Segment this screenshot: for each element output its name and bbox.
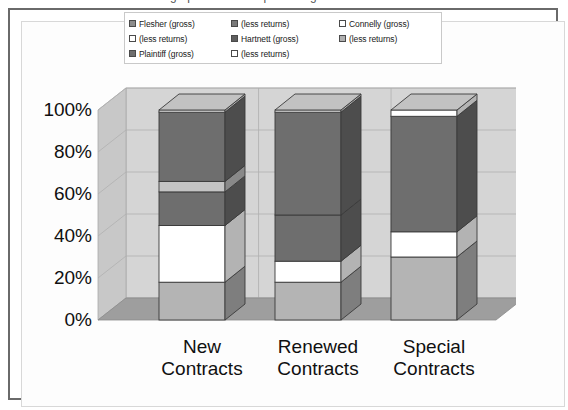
bar-3 [391,94,477,320]
legend-item: Hartnett (gross) [231,31,337,46]
legend-swatch-icon [339,20,346,27]
legend-item: (less returns) [339,31,439,46]
bar-1 [159,94,245,320]
x-axis-category-line: Special [359,336,509,358]
legend-item-label: Hartnett (gross) [241,34,298,44]
legend-item: (less returns) [231,46,337,61]
legend-item-label: (less returns) [139,34,187,44]
x-axis-category-line: Contracts [359,358,509,380]
chart-legend: Flesher (gross)(less returns)Connelly (g… [124,12,442,64]
x-axis-category-label: SpecialContracts [359,336,509,380]
chart-figure: graph of contract percentages Flesher (g… [0,0,568,410]
y-axis-tick-label: 100% [8,100,92,120]
legend-swatch-icon [129,35,136,42]
legend-swatch-icon [129,50,136,57]
y-axis-tick-label: 60% [8,184,92,204]
y-axis-tick-label: 40% [8,226,92,246]
legend-swatch-icon [231,50,238,57]
legend-item: Connelly (gross) [339,16,439,31]
legend-empty-cell [339,46,439,61]
legend-item-label: Plaintiff (gross) [139,49,194,59]
bar-2 [275,94,361,320]
legend-item-label: (less returns) [349,34,397,44]
left-wall [98,88,126,320]
legend-item: Flesher (gross) [129,16,229,31]
legend-swatch-icon [129,20,136,27]
plot-svg [96,74,516,336]
legend-item-label: Flesher (gross) [139,19,195,29]
y-axis-tick-label: 20% [8,268,92,288]
legend-swatch-icon [339,35,346,42]
legend-item-label: Connelly (gross) [349,19,409,29]
legend-swatch-icon [231,20,238,27]
legend-item: (less returns) [129,31,229,46]
legend-item-label: (less returns) [241,19,289,29]
legend-item: (less returns) [231,16,337,31]
y-axis-tick-label: 0% [8,310,92,330]
legend-item: Plaintiff (gross) [129,46,229,61]
clipped-top-text: graph of contract percentages [0,0,568,7]
legend-item-label: (less returns) [241,49,289,59]
plot-area [96,74,516,336]
legend-swatch-icon [231,35,238,42]
y-axis-tick-label: 80% [8,142,92,162]
